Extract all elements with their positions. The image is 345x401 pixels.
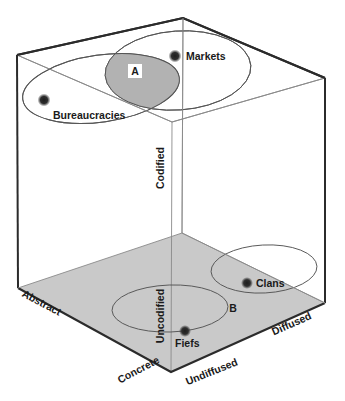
cube-diagram-svg: Markets Bureaucracies Clans Fiefs A B Co… bbox=[0, 0, 345, 401]
clans-dot bbox=[241, 277, 253, 289]
fiefs-dot bbox=[179, 325, 191, 337]
axis-label-uncodified: Uncodified bbox=[154, 289, 166, 343]
markets-label: Markets bbox=[186, 50, 226, 62]
axis-label-concrete: Concrete bbox=[115, 353, 161, 385]
region-a-label: A bbox=[131, 65, 139, 77]
bureaucracies-label: Bureaucracies bbox=[53, 109, 126, 121]
clans-label: Clans bbox=[256, 277, 285, 289]
region-b-label: B bbox=[229, 302, 237, 314]
diagram-canvas: Markets Bureaucracies Clans Fiefs A B Co… bbox=[0, 0, 345, 401]
bureaucracies-dot bbox=[38, 94, 51, 107]
region-a-label-group: A bbox=[128, 64, 142, 78]
axis-label-codified: Codified bbox=[154, 147, 166, 189]
markets-dot bbox=[169, 50, 182, 63]
fiefs-label: Fiefs bbox=[175, 337, 200, 349]
